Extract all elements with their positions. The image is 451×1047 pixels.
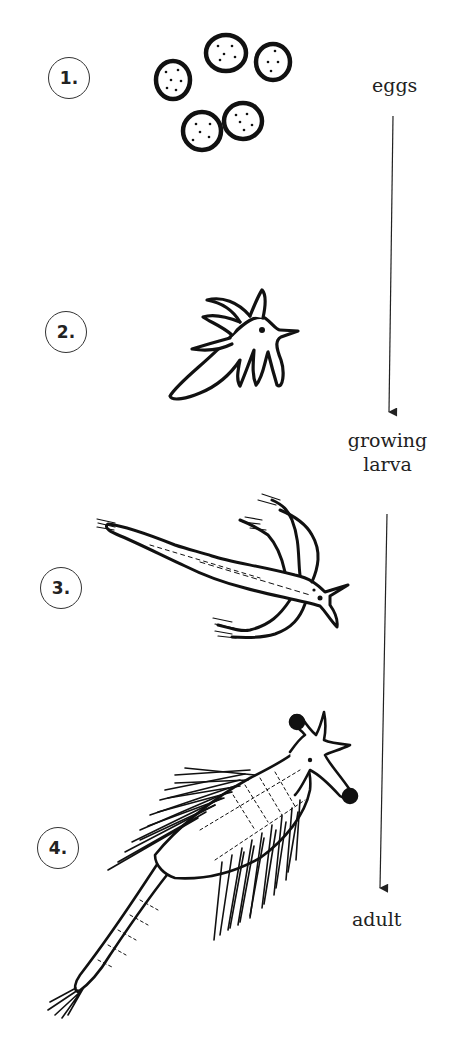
label-growing-larva: growing larva	[340, 428, 435, 476]
stage-number-4: 4.	[37, 827, 79, 869]
label-adult: adult	[352, 907, 401, 931]
arrow-eggs-to-larva	[389, 116, 393, 412]
label-growing-line2: larva	[340, 452, 435, 476]
stage-number-2: 2.	[45, 311, 87, 353]
early-larva-illustration	[170, 290, 298, 399]
stage-number-3: 3.	[40, 567, 82, 609]
label-eggs: eggs	[372, 73, 417, 97]
stage-number-1: 1.	[48, 57, 90, 99]
eggs-illustration	[156, 35, 290, 150]
label-growing-line1: growing	[340, 428, 435, 452]
adult-illustration	[48, 712, 357, 1018]
growing-larva-illustration	[97, 494, 348, 638]
arrow-larva-to-adult	[380, 514, 387, 888]
diagram-artwork	[0, 0, 451, 1047]
